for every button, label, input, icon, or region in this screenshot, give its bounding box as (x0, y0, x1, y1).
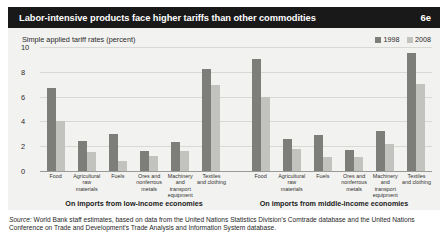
panel-caption-middle-income: On imports from middle-income economies (236, 199, 432, 208)
chart-legend: 1998 2008 (375, 35, 431, 44)
panel-middle-income-bars (236, 47, 432, 171)
bar-1998 (252, 59, 261, 171)
y-axis-title: Simple applied tariff rates (percent) (22, 35, 135, 44)
bar-2008 (354, 157, 363, 171)
bar-group (40, 47, 71, 171)
y-axis-tick-label: 2 (21, 142, 36, 151)
figure-title-bar: Labor-intensive products face higher tar… (8, 7, 440, 28)
bar-2008 (56, 121, 65, 171)
y-axis-tick-label: 10 (21, 43, 36, 52)
bar-1998 (140, 151, 149, 171)
bar-1998 (407, 53, 416, 171)
source-note: Source: World Bank staff estimates, base… (9, 216, 439, 233)
bar-1998 (171, 142, 180, 171)
bar-group (339, 47, 370, 171)
bar-group (370, 47, 401, 171)
bar-2008 (180, 151, 189, 171)
bar-group (307, 47, 338, 171)
figure-number: 6e (420, 12, 431, 23)
y-axis-tick-label: 6 (21, 92, 36, 101)
bar-group (71, 47, 102, 171)
bar-1998 (47, 88, 56, 171)
legend-label-1998: 1998 (384, 35, 400, 44)
bar-1998 (202, 69, 211, 171)
bar-1998 (376, 131, 385, 171)
bar-group (401, 47, 432, 171)
bar-1998 (345, 150, 354, 171)
bar-2008 (211, 85, 220, 171)
bar-1998 (78, 141, 87, 171)
bar-2008 (292, 149, 301, 171)
y-axis-tick-label: 4 (21, 117, 36, 126)
figure-title: Labor-intensive products face higher tar… (19, 13, 316, 23)
bar-2008 (416, 84, 425, 171)
legend-swatch-2008 (407, 37, 413, 43)
legend-label-2008: 2008 (415, 35, 431, 44)
bar-2008 (118, 161, 127, 171)
legend-item-2008: 2008 (407, 35, 432, 44)
legend-swatch-1998 (375, 37, 381, 43)
bar-2008 (87, 152, 96, 171)
gridline (40, 171, 432, 172)
bar-2008 (261, 97, 270, 171)
chart-plot-area: 0246810 (21, 47, 432, 171)
bar-2008 (385, 144, 394, 171)
figure-container: Labor-intensive products face higher tar… (0, 0, 448, 241)
bar-1998 (314, 135, 323, 171)
panel-caption-low-income: On imports from low-income economies (36, 199, 232, 208)
bar-2008 (323, 157, 332, 171)
source-text: World Bank staff estimates, based on dat… (9, 216, 415, 231)
bar-group (134, 47, 165, 171)
bar-1998 (283, 139, 292, 171)
bar-panels (40, 47, 432, 171)
chart-panel: Simple applied tariff rates (percent) 19… (8, 28, 440, 210)
panel-low-income-bars (40, 47, 236, 171)
bar-2008 (149, 156, 158, 171)
source-label: Source: (9, 216, 32, 223)
bar-group (102, 47, 133, 171)
bar-1998 (109, 134, 118, 171)
y-axis-tick-label: 0 (21, 167, 36, 176)
bar-group (276, 47, 307, 171)
bar-group (165, 47, 196, 171)
bar-group (245, 47, 276, 171)
y-axis-tick-label: 8 (21, 67, 36, 76)
legend-item-1998: 1998 (375, 35, 400, 44)
bar-group (196, 47, 227, 171)
